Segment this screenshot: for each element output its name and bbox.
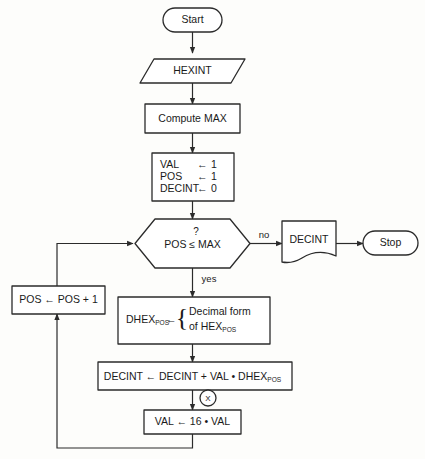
dhex-assign-brace: { (176, 303, 188, 332)
init-line-2-arrow: ← (197, 170, 208, 182)
init-line-1-arrow: ← (197, 158, 208, 170)
stop-label: Stop (380, 236, 402, 248)
decint-output-label: DECINT (289, 233, 329, 245)
init-line-3-value: 0 (211, 182, 217, 194)
flowchart-svg: Start HEXINT Compute MAX VAL ← 1 POS ← 1… (0, 0, 425, 459)
node-decision[interactable]: ? POS ≤ MAX no yes (135, 219, 269, 284)
node-output-decint[interactable]: DECINT (282, 221, 336, 263)
decision-condition-label: POS ≤ MAX (164, 238, 221, 250)
node-compute-max[interactable]: Compute MAX (145, 104, 240, 133)
init-line-2-value: 1 (211, 170, 217, 182)
flowchart-canvas: Start HEXINT Compute MAX VAL ← 1 POS ← 1… (0, 0, 425, 459)
val-update-label: VAL ← 16 • VAL (155, 415, 230, 427)
edge-pos-to-decision-loop (57, 244, 133, 287)
connector-x-label: X (205, 394, 211, 403)
decision-question-mark: ? (193, 226, 199, 237)
node-val-update[interactable]: VAL ← 16 • VAL (144, 410, 241, 434)
node-start[interactable]: Start (163, 8, 222, 32)
init-line-3-var: DECINT (160, 182, 200, 194)
node-pos-increment[interactable]: POS ← POS + 1 (12, 286, 105, 314)
pos-increment-label: POS ← POS + 1 (19, 293, 98, 305)
start-label: Start (181, 13, 203, 25)
init-line-2-var: POS (160, 170, 182, 182)
node-connector-x[interactable]: X (200, 390, 216, 406)
decision-no-label: no (259, 229, 270, 240)
decint-accum-label: DECINT ← DECINT + VAL • DHEXPOS (104, 369, 282, 382)
init-line-3-arrow: ← (197, 182, 208, 194)
node-input-hexint[interactable]: HEXINT (140, 59, 245, 83)
hexint-label: HEXINT (173, 64, 212, 76)
init-line-1-value: 1 (211, 158, 217, 170)
node-initialization[interactable]: VAL ← 1 POS ← 1 DECINT ← 0 (152, 153, 234, 201)
node-decint-accumulate[interactable]: DECINT ← DECINT + VAL • DHEXPOS (98, 362, 292, 390)
dhex-assign-rhs-line1: Decimal form (189, 305, 251, 317)
node-dhex-assign[interactable]: DHEXPOS ← { Decimal form of HEXPOS (118, 297, 270, 344)
node-stop[interactable]: Stop (363, 231, 418, 255)
compute-max-label: Compute MAX (158, 112, 226, 124)
decision-yes-label: yes (202, 273, 217, 284)
init-line-1-var: VAL (160, 158, 179, 170)
